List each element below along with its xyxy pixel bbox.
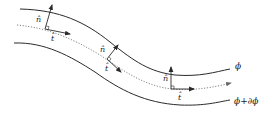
normal-label-3: n̂ [163, 75, 168, 83]
normal-label-1: n̂ [36, 16, 41, 24]
vector-pair-3 [171, 67, 194, 89]
curve-label-phi: ϕ [235, 62, 241, 71]
tangent-label-3: t̂ [178, 94, 181, 102]
level-curve-phi-plus-dphi [14, 43, 230, 105]
vector-pair-1 [45, 5, 70, 34]
streamline-diagram: n̂ t̂ n̂ t̂ n̂ t̂ ϕ ϕ+∂ϕ [0, 0, 271, 113]
streamline-dotted [17, 25, 231, 90]
normal-vector-1 [45, 5, 52, 29]
normal-label-2: n̂ [100, 46, 105, 54]
tangent-label-1: t̂ [51, 35, 54, 43]
tangent-vector-1 [45, 29, 70, 34]
tangent-label-2: t̂ [105, 65, 108, 73]
curve-label-phi-plus-dphi: ϕ+∂ϕ [234, 97, 258, 106]
